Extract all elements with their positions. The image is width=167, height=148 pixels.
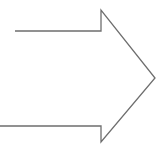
right-arrow-icon <box>0 10 155 142</box>
diagram-canvas: Right-pointing arrow outline <box>0 0 167 148</box>
arrow-diagram-svg: Right-pointing arrow outline <box>0 0 167 148</box>
